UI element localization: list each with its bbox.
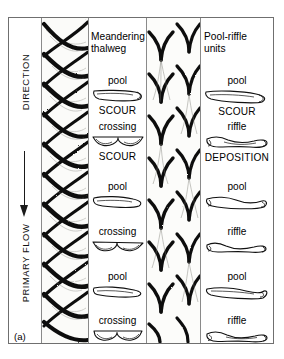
unit-label: crossing <box>89 226 146 237</box>
figure-caption: (a) <box>14 331 26 342</box>
pool-cross-section <box>91 87 145 104</box>
pool-cross-section <box>91 283 145 300</box>
pool-cross-section <box>204 193 270 211</box>
unit-label: riffle <box>201 121 273 132</box>
primary-flow-direction-axis: DIRECTION PRIMARY FLOW <box>9 18 40 343</box>
unit-process: SCOUR <box>89 151 146 162</box>
pool-cross-section <box>91 193 145 210</box>
unit-process: DEPOSITION <box>201 152 273 163</box>
unit-process: SCOUR <box>89 105 146 116</box>
unit-riffle-3: riffle <box>201 315 273 346</box>
down-arrow-icon <box>24 151 26 217</box>
flow-direction-label: DIRECTION <box>19 54 30 111</box>
unit-riffle-2: riffle <box>201 226 273 257</box>
unit-pool-3: pool <box>89 271 146 301</box>
pool-cross-section <box>204 283 270 301</box>
unit-crossing-3: crossing <box>89 315 146 345</box>
unit-pool-2: pool <box>201 181 273 212</box>
unit-pool-1: pool SCOUR <box>89 75 146 116</box>
unit-label: pool <box>89 271 146 282</box>
column-title-meandering-thalweg: Meandering thalweg <box>91 31 149 54</box>
unit-pool-1: pool SCOUR <box>201 75 273 117</box>
crossing-cross-section <box>91 238 145 255</box>
pool-riffle-units-column: Pool-riffle units pool SCOUR riffle DEPO… <box>201 18 273 343</box>
unit-label: pool <box>201 181 273 192</box>
unit-label: pool <box>201 75 273 86</box>
unit-pool-3: pool <box>201 271 273 302</box>
riffle-cross-section <box>204 133 270 151</box>
unit-pool-2: pool <box>89 181 146 211</box>
unit-label: crossing <box>89 315 146 326</box>
figure-panel-a: DIRECTION PRIMARY FLOW <box>0 0 284 359</box>
crossing-cross-section <box>91 327 145 344</box>
unit-crossing-1: crossing SCOUR <box>89 121 146 162</box>
crossing-cross-section <box>91 133 145 150</box>
braided-channel-photo <box>41 18 89 343</box>
primary-flow-label: PRIMARY FLOW <box>19 224 30 303</box>
pool-cross-section <box>204 87 270 105</box>
meandering-thalweg-column: Meandering thalweg pool SCOUR crossing S… <box>89 18 146 343</box>
unit-riffle-1: riffle DEPOSITION <box>201 121 273 163</box>
riffle-cross-section <box>204 238 270 256</box>
unit-label: riffle <box>201 226 273 237</box>
chevron-bar-photo <box>146 18 201 343</box>
unit-label: pool <box>201 271 273 282</box>
unit-process: SCOUR <box>201 106 273 117</box>
riffle-cross-section <box>204 327 270 345</box>
unit-crossing-2: crossing <box>89 226 146 256</box>
unit-label: pool <box>89 181 146 192</box>
unit-label: riffle <box>201 315 273 326</box>
column-title-pool-riffle-units: Pool-riffle units <box>204 31 270 54</box>
unit-label: crossing <box>89 121 146 132</box>
unit-label: pool <box>89 75 146 86</box>
